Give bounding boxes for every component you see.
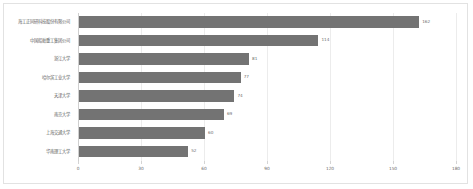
- bar-value-label: 81: [252, 53, 257, 65]
- chart-panel: 海工正同研科技股份有限公司中国船舶重工集团公司浙江大学哈尔滨工业大学天津大学南京…: [3, 3, 468, 184]
- bar-value-label: 60: [208, 127, 213, 139]
- x-tick-mark: [330, 161, 331, 164]
- bar[interactable]: [79, 53, 249, 65]
- bar-value-label: 52: [191, 145, 196, 157]
- x-tick-mark: [78, 161, 79, 164]
- bar[interactable]: [79, 72, 241, 84]
- x-tick-mark: [393, 161, 394, 164]
- bar[interactable]: [79, 90, 234, 102]
- category-label: 华南理工大学: [46, 146, 70, 158]
- bar-row[interactable]: 74: [78, 87, 456, 106]
- bar-value-label: 74: [237, 90, 242, 102]
- bar-value-label: 69: [227, 108, 232, 120]
- category-label: 天津大学: [54, 90, 70, 102]
- x-tick-mark: [456, 161, 457, 164]
- x-gridline: [456, 13, 457, 161]
- bar[interactable]: [79, 127, 205, 139]
- x-tick-mark: [267, 161, 268, 164]
- bar-row[interactable]: 69: [78, 106, 456, 125]
- x-tick-mark: [141, 161, 142, 164]
- bar-row[interactable]: 81: [78, 50, 456, 69]
- category-label: 海工正同研科技股份有限公司: [18, 16, 70, 28]
- plot-area: 0306090120150180162114817774696052: [78, 13, 456, 161]
- x-tick-label: 180: [452, 165, 460, 173]
- x-tick-mark: [204, 161, 205, 164]
- bar-row[interactable]: 162: [78, 13, 456, 32]
- bar-row[interactable]: 77: [78, 69, 456, 88]
- bar-value-label: 114: [321, 34, 329, 46]
- category-label: 浙江大学: [54, 53, 70, 65]
- bar[interactable]: [79, 109, 224, 121]
- bar[interactable]: [79, 35, 318, 47]
- bar-row[interactable]: 114: [78, 32, 456, 51]
- bar-value-label: 162: [422, 16, 430, 28]
- bar[interactable]: [79, 146, 188, 158]
- x-tick-label: 0: [77, 165, 80, 173]
- category-label: 南京大学: [54, 109, 70, 121]
- x-tick-label: 90: [264, 165, 269, 173]
- bar[interactable]: [79, 16, 419, 28]
- x-tick-label: 60: [201, 165, 206, 173]
- category-axis: 海工正同研科技股份有限公司中国船舶重工集团公司浙江大学哈尔滨工业大学天津大学南京…: [4, 13, 74, 161]
- bar-row[interactable]: 60: [78, 124, 456, 143]
- x-tick-label: 150: [389, 165, 397, 173]
- x-tick-label: 120: [326, 165, 334, 173]
- category-label: 哈尔滨工业大学: [42, 72, 70, 84]
- bar-value-label: 77: [244, 71, 249, 83]
- category-label: 中国船舶重工集团公司: [30, 35, 70, 47]
- x-tick-label: 30: [138, 165, 143, 173]
- category-label: 上海交通大学: [46, 127, 70, 139]
- bar-row[interactable]: 52: [78, 143, 456, 162]
